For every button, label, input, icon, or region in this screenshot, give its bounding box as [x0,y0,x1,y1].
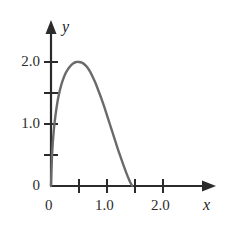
chart-figure: 2.0 1.0 0 0 1.0 2.0 y x [0,0,234,243]
y-tick-label-0: 0 [14,178,40,193]
x-tick-label-2-0: 2.0 [151,198,170,213]
y-axis-label: y [62,19,69,35]
y-axis-arrowhead [46,20,57,34]
x-tick-label-1-0: 1.0 [95,198,114,213]
y-tick-label-1-0: 1.0 [14,116,40,131]
x-axis-label: x [203,197,210,213]
data-curve [51,62,132,186]
y-tick-label-2-0: 2.0 [14,54,40,69]
axes-group [46,20,217,192]
x-tick-label-0: 0 [45,198,53,213]
x-axis-arrowhead [202,181,216,192]
